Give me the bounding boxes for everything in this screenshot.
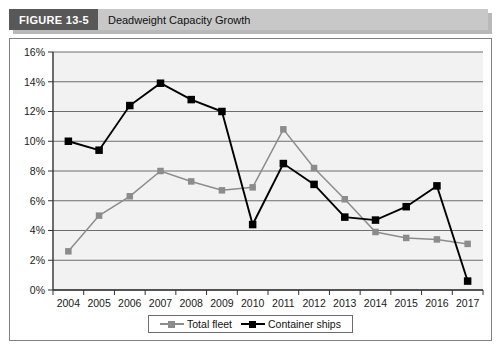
data-point-marker	[372, 229, 379, 236]
data-point-marker	[157, 79, 165, 87]
figure-number-tag: FIGURE 13-5	[9, 9, 98, 30]
data-point-marker	[434, 236, 441, 243]
y-axis-tick-label: 12%	[24, 105, 45, 117]
data-point-marker	[127, 193, 133, 200]
y-axis-tick-label: 8%	[30, 165, 45, 177]
page-title: Deadweight Capacity Growth	[108, 14, 250, 26]
data-point-marker	[311, 165, 318, 172]
legend-item-container-ships[interactable]: Container ships	[241, 318, 341, 330]
x-axis-tick-label: 2012	[302, 297, 326, 309]
y-axis-tick-label: 2%	[30, 254, 45, 266]
x-axis-tick-label: 2010	[241, 297, 265, 309]
y-axis-tick-label: 10%	[24, 135, 45, 147]
legend-label-total-fleet: Total fleet	[187, 318, 232, 330]
data-point-marker	[96, 212, 103, 219]
y-axis-tick-label: 4%	[30, 224, 45, 236]
data-point-marker	[65, 248, 72, 255]
x-axis-tick-label: 2004	[57, 297, 81, 309]
chart-legend: Total fleet Container ships	[148, 315, 353, 333]
figure-title-bar: Deadweight Capacity Growth	[98, 9, 488, 30]
data-point-marker	[433, 182, 441, 190]
data-point-marker	[372, 216, 380, 224]
data-point-marker	[157, 168, 164, 175]
data-point-marker	[95, 146, 103, 154]
figure-container: FIGURE 13-5 Deadweight Capacity Growth 0…	[0, 0, 501, 350]
legend-label-container-ships: Container ships	[268, 318, 341, 330]
data-point-marker	[403, 235, 410, 242]
x-axis-tick-label: 2008	[180, 297, 204, 309]
data-point-marker	[280, 160, 288, 168]
x-axis-tick-label: 2009	[210, 297, 234, 309]
data-point-marker	[280, 126, 287, 133]
y-axis-tick-label: 0%	[30, 284, 45, 296]
x-axis-tick-label: 2014	[364, 297, 388, 309]
data-point-marker	[218, 108, 226, 116]
chart-frame: 0%2%4%6%8%10%12%14%16%200420052006200720…	[9, 38, 492, 341]
line-chart-plot: 0%2%4%6%8%10%12%14%16%200420052006200720…	[10, 39, 491, 340]
legend-swatch-container-ships-icon	[241, 319, 265, 329]
data-point-marker	[341, 213, 349, 221]
data-point-marker	[188, 178, 195, 185]
data-point-marker	[65, 138, 73, 146]
x-axis-tick-label: 2005	[87, 297, 111, 309]
data-point-marker	[249, 221, 257, 229]
data-point-marker	[310, 181, 318, 189]
x-axis-tick-label: 2017	[456, 297, 480, 309]
data-point-marker	[219, 187, 226, 194]
data-point-marker	[402, 203, 410, 211]
data-point-marker	[126, 102, 133, 110]
figure-header: FIGURE 13-5 Deadweight Capacity Growth	[9, 9, 488, 30]
data-point-marker	[464, 277, 472, 285]
legend-swatch-total-fleet-icon	[160, 319, 184, 329]
x-axis-tick-label: 2016	[425, 297, 449, 309]
y-axis-tick-label: 14%	[24, 76, 45, 88]
data-point-marker	[464, 241, 471, 248]
x-axis-tick-label: 2011	[272, 297, 295, 309]
y-axis-tick-label: 6%	[30, 195, 45, 207]
data-point-marker	[342, 196, 349, 203]
data-point-marker	[187, 96, 195, 104]
x-axis-tick-label: 2006	[118, 297, 142, 309]
x-axis-tick-label: 2015	[395, 297, 419, 309]
x-axis-tick-label: 2007	[149, 297, 173, 309]
y-axis-tick-label: 16%	[24, 46, 45, 58]
legend-item-total-fleet[interactable]: Total fleet	[160, 318, 232, 330]
x-axis-tick-label: 2013	[333, 297, 357, 309]
chart-inner: 0%2%4%6%8%10%12%14%16%200420052006200720…	[10, 39, 491, 340]
data-point-marker	[249, 184, 256, 191]
